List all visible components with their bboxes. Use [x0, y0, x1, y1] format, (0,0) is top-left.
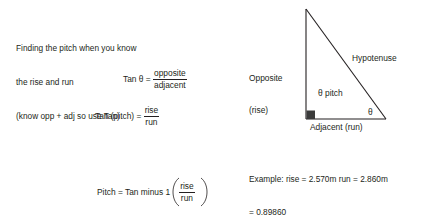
label-opposite-line-2: (rise) — [249, 105, 283, 116]
label-theta-pitch: θ pitch — [318, 88, 343, 99]
label-opposite: Opposite (rise) — [249, 52, 283, 137]
label-adjacent: Adjacent (run) — [310, 122, 363, 133]
right-angle-marker-icon — [307, 111, 316, 120]
example-text-block: Example: rise = 2.570m run = 2.860m = 0.… — [249, 152, 388, 223]
formula-pitch-inverse-fraction: rise run — [179, 181, 195, 204]
label-hypotenuse: Hypotenuse — [352, 53, 397, 64]
formula-pitch-inverse-numerator: rise — [179, 181, 195, 193]
formula-pitch-inverse-denominator: run — [180, 193, 194, 204]
example-line-1: Example: rise = 2.570m run = 2.860m — [249, 174, 388, 185]
label-opposite-line-1: Opposite — [249, 73, 283, 84]
worksheet-page: Finding the pitch when you know the rise… — [0, 0, 424, 223]
triangle-hypotenuse-side — [306, 9, 386, 119]
example-line-2: = 0.89860 — [249, 207, 388, 218]
label-theta-corner: θ — [368, 107, 373, 118]
